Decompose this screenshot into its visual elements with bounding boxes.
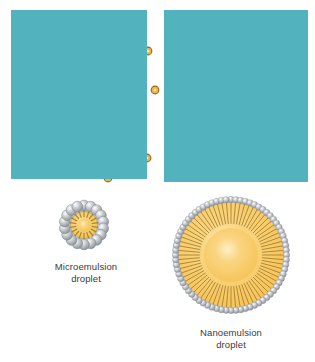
microemulsion-panel: [11, 10, 147, 179]
microemulsion-droplet-illustration: [57, 198, 111, 252]
microemulsion-droplet-figure: [57, 198, 111, 252]
nanoemulsion-panel: [164, 10, 308, 182]
nanoemulsion-panel-background: [164, 10, 308, 182]
nanoemulsion-droplet-label: Nanoemulsion droplet: [172, 327, 290, 351]
figure-stage: Microemulsion droplet Nanoemulsion dropl…: [0, 0, 315, 362]
droplet: [151, 86, 160, 95]
nanoemulsion-droplet-illustration: [172, 196, 290, 314]
nanoemulsion-droplet-figure: [172, 196, 290, 314]
microemulsion-panel-background: [11, 10, 147, 179]
microemulsion-droplet-label: Microemulsion droplet: [36, 261, 136, 285]
